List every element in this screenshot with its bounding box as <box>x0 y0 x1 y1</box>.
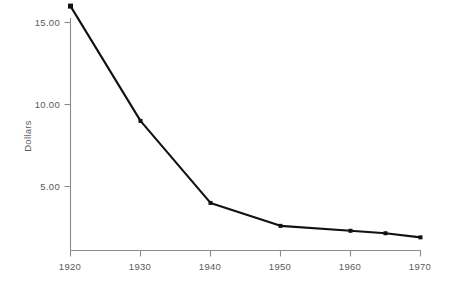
data-point-marker <box>349 229 353 233</box>
y-tick-label: 5.00 <box>40 181 60 192</box>
x-tick-label: 1970 <box>409 261 431 272</box>
data-point-marker <box>139 119 143 123</box>
y-axis-title: Dollars <box>22 120 33 152</box>
x-tick-label: 1940 <box>199 261 221 272</box>
y-tick-label: 10.00 <box>35 99 60 110</box>
line-chart: 5.00 10.00 15.00 Dollars 1920 1930 1940 … <box>0 0 457 288</box>
data-point-marker <box>419 235 423 239</box>
x-tick-label: 1950 <box>269 261 291 272</box>
x-tick-label: 1920 <box>59 261 81 272</box>
y-tick-label: 15.00 <box>35 17 60 28</box>
chart-background <box>0 0 457 288</box>
x-tick-label: 1930 <box>129 261 151 272</box>
chart-canvas: 5.00 10.00 15.00 Dollars 1920 1930 1940 … <box>0 0 457 288</box>
data-point-marker <box>68 4 73 9</box>
x-tick-label: 1960 <box>339 261 361 272</box>
data-point-marker <box>209 201 213 205</box>
data-point-marker <box>279 224 283 228</box>
data-point-marker <box>384 231 388 235</box>
